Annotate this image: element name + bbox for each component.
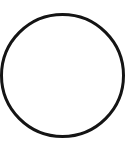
- canvas: [0, 0, 134, 141]
- circle-drawing: [0, 0, 134, 141]
- circle-outline: [2, 15, 124, 137]
